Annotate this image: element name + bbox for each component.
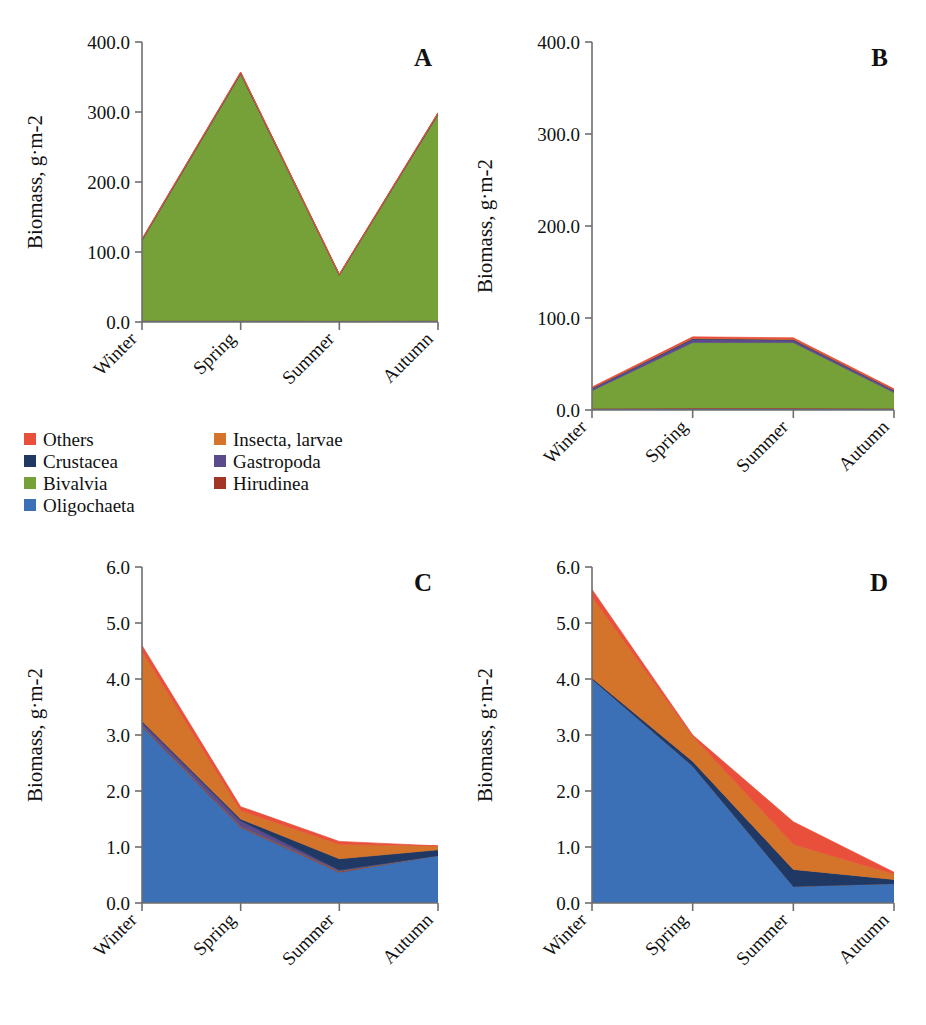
- legend-swatch-icon: [24, 499, 36, 511]
- x-category-label: Winter: [89, 328, 141, 380]
- x-category-label: Spring: [641, 416, 692, 467]
- legend-item: Gastropoda: [214, 452, 429, 471]
- y-axis-title: Biomass, g·m-2: [473, 668, 497, 802]
- x-category-label: Autumn: [834, 909, 893, 968]
- legend-grid: OthersInsecta, larvaeCrustaceaGastropoda…: [24, 428, 434, 516]
- x-category-label: Summer: [278, 909, 339, 970]
- y-tick-label: 200.0: [537, 216, 580, 237]
- x-category-label: Spring: [189, 328, 240, 379]
- legend-swatch-icon: [24, 455, 36, 467]
- x-category-label: Spring: [189, 909, 240, 960]
- y-tick-label: 6.0: [556, 557, 580, 578]
- legend: OthersInsecta, larvaeCrustaceaGastropoda…: [24, 428, 434, 524]
- y-tick-label: 4.0: [556, 669, 580, 690]
- y-tick-label: 5.0: [556, 613, 580, 634]
- legend-item: Crustacea: [24, 452, 214, 471]
- area-series: [592, 343, 894, 409]
- chart-panel-a: 0.0100.0200.0300.0400.0WinterSpringSumme…: [0, 20, 450, 430]
- panel-letter: A: [414, 44, 432, 71]
- y-tick-label: 400.0: [537, 32, 580, 53]
- x-category-label: Winter: [539, 909, 591, 961]
- chart-svg-panel-D: 0.01.02.03.04.05.06.0WinterSpringSummerA…: [452, 545, 922, 1015]
- chart-panel-d: 0.01.02.03.04.05.06.0WinterSpringSummerA…: [452, 545, 922, 1015]
- legend-swatch-icon: [24, 477, 36, 489]
- legend-item-label: Insecta, larvae: [233, 430, 343, 449]
- chart-svg-panel-A: 0.0100.0200.0300.0400.0WinterSpringSumme…: [0, 20, 450, 430]
- legend-item-label: Hirudinea: [233, 474, 309, 493]
- legend-item: Hirudinea: [214, 474, 429, 493]
- x-category-label: Autumn: [834, 416, 893, 475]
- y-tick-label: 4.0: [106, 669, 130, 690]
- chart-svg-panel-C: 0.01.02.03.04.05.06.0WinterSpringSummerA…: [0, 545, 450, 1015]
- legend-item: Others: [24, 430, 214, 449]
- x-category-label: Winter: [89, 909, 141, 961]
- y-tick-label: 2.0: [106, 781, 130, 802]
- y-tick-label: 5.0: [106, 613, 130, 634]
- legend-swatch-icon: [214, 433, 226, 445]
- y-tick-label: 1.0: [556, 837, 580, 858]
- y-tick-label: 3.0: [106, 725, 130, 746]
- chart-svg-panel-B: 0.0100.0200.0300.0400.0WinterSpringSumme…: [452, 20, 922, 520]
- chart-panel-c: 0.01.02.03.04.05.06.0WinterSpringSummerA…: [0, 545, 450, 1015]
- panel-letter: C: [414, 569, 432, 596]
- y-tick-label: 200.0: [87, 172, 130, 193]
- y-axis-title: Biomass, g·m-2: [23, 115, 47, 249]
- x-category-label: Summer: [732, 909, 793, 970]
- y-tick-label: 300.0: [537, 124, 580, 145]
- chart-panel-b: 0.0100.0200.0300.0400.0WinterSpringSumme…: [452, 20, 922, 520]
- y-tick-label: 2.0: [556, 781, 580, 802]
- panel-letter: B: [871, 44, 888, 71]
- stacked-areas: [142, 645, 438, 903]
- legend-item: Oligochaeta: [24, 496, 214, 515]
- legend-item: Bivalvia: [24, 474, 214, 493]
- y-tick-label: 300.0: [87, 102, 130, 123]
- area-series: [142, 74, 438, 321]
- figure-root: 0.0100.0200.0300.0400.0WinterSpringSumme…: [0, 0, 926, 1025]
- panel-letter: D: [870, 569, 888, 596]
- legend-item-label: Gastropoda: [233, 452, 321, 471]
- stacked-areas: [142, 72, 438, 322]
- x-category-label: Summer: [732, 416, 793, 477]
- x-category-label: Summer: [278, 328, 339, 389]
- y-tick-label: 100.0: [87, 242, 130, 263]
- y-tick-label: 6.0: [106, 557, 130, 578]
- y-axis-title: Biomass, g·m-2: [23, 668, 47, 802]
- stacked-areas: [592, 589, 894, 903]
- legend-swatch-icon: [214, 477, 226, 489]
- legend-item-label: Oligochaeta: [43, 496, 135, 515]
- x-category-label: Winter: [539, 416, 591, 468]
- x-category-label: Autumn: [378, 909, 437, 968]
- y-tick-label: 100.0: [537, 308, 580, 329]
- x-category-label: Spring: [641, 909, 692, 960]
- stacked-areas: [592, 337, 894, 410]
- y-tick-label: 1.0: [106, 837, 130, 858]
- legend-item: Insecta, larvae: [214, 430, 429, 449]
- y-tick-label: 400.0: [87, 32, 130, 53]
- legend-swatch-icon: [214, 455, 226, 467]
- x-category-label: Autumn: [378, 328, 437, 387]
- legend-item-label: Bivalvia: [43, 474, 107, 493]
- legend-item-label: Crustacea: [43, 452, 118, 471]
- y-tick-label: 3.0: [556, 725, 580, 746]
- y-axis-title: Biomass, g·m-2: [473, 159, 497, 293]
- legend-item-label: Others: [43, 430, 94, 449]
- legend-swatch-icon: [24, 433, 36, 445]
